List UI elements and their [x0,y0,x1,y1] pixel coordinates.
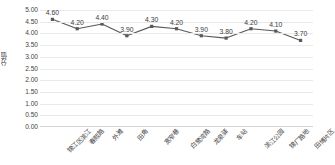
y-tick-label: 3.00 [14,53,38,60]
y-tick-label: 5.00 [14,6,38,13]
data-point-label: 3.70 [294,30,307,37]
data-point-marker [76,27,79,30]
x-category-label: 田角 [135,128,149,142]
gridline [40,80,313,81]
data-point-label: 4.20 [170,19,183,26]
x-category-label: 白鹭湾路 [189,128,211,150]
gridline [40,115,313,116]
gridline [40,104,313,105]
y-tick-label: 0.00 [14,123,38,130]
y-tick-label: 1.50 [14,88,38,95]
data-point-label: 3.90 [195,26,208,33]
x-category-label: 龙泉驿 [212,128,230,146]
data-point-label: 4.20 [244,19,257,26]
x-category-label: 外滩 [111,128,125,142]
y-tick-label: 2.50 [14,65,38,72]
y-axis-title: 分值 [1,52,13,66]
x-category-label: 宽窄巷 [162,128,180,146]
data-point-marker [274,29,277,32]
plot-area: 4.604.204.403.904.304.203.903.804.204.10… [40,10,313,127]
data-point-label: 3.80 [220,28,233,35]
data-point-marker [200,34,203,37]
data-point-label: 4.40 [95,14,108,21]
data-point-label: 4.20 [71,19,84,26]
y-tick-label: 1.00 [14,100,38,107]
y-tick-label: 4.00 [14,30,38,37]
data-point-marker [150,25,153,28]
data-point-marker [125,34,128,37]
data-point-marker [249,27,252,30]
data-point-label: 4.30 [145,16,158,23]
data-point-marker [51,18,54,21]
gridline [40,33,313,34]
y-tick-label: 4.50 [14,18,38,25]
x-category-label: 滨江公园 [263,128,285,150]
gridline [40,10,313,11]
edge-artifact [317,58,319,72]
x-axis-category-labels: 锦江区滨江春熙路外滩田角宽窄巷白鹭湾路龙泉驿车站滨江公园锦厂路地田博片区 [40,128,313,165]
y-tick-label: 3.50 [14,41,38,48]
gridline [40,69,313,70]
y-tick-label: 2.00 [14,77,38,84]
data-point-marker [299,39,302,42]
data-point-marker [225,36,228,39]
data-point-label: 3.90 [120,26,133,33]
x-category-label: 田博片区 [313,128,335,150]
data-point-label: 4.10 [269,21,282,28]
gridline [40,57,313,58]
data-point-marker [175,27,178,30]
data-point-marker [100,22,103,25]
data-point-label: 4.60 [46,9,59,16]
x-category-label: 锦厂路地 [288,128,310,150]
gridline [40,92,313,93]
x-category-label: 车站 [235,128,249,142]
gridline [40,45,313,46]
y-tick-label: 0.50 [14,112,38,119]
y-axis-tick-labels: 5.004.504.003.503.002.502.001.501.000.50… [14,10,38,127]
